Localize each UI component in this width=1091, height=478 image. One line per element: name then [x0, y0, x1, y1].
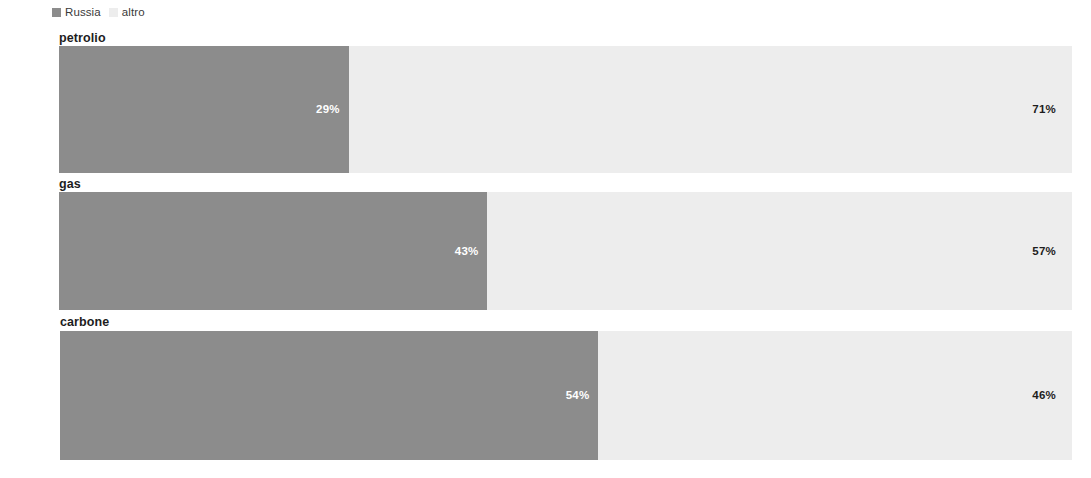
bar-value-gas-russia: 43%	[455, 245, 488, 258]
bar-segment-petrolio-russia[interactable]: 29%	[59, 46, 349, 173]
category-label-gas: gas	[59, 177, 81, 191]
bar-value-petrolio-russia: 29%	[316, 103, 349, 116]
stacked-bar-chart: petrolio 29% 71% gas 43% 57% carbone 54%	[0, 0, 1091, 478]
bar-track-carbone: 54% 46%	[60, 331, 1072, 460]
bar-segment-carbone-russia[interactable]: 54%	[60, 331, 598, 460]
bar-track-gas: 43% 57%	[59, 192, 1072, 310]
bar-segment-carbone-altro[interactable]: 46%	[598, 331, 1072, 460]
bar-segment-petrolio-altro[interactable]: 71%	[349, 46, 1072, 173]
bar-track-petrolio: 29% 71%	[59, 46, 1072, 173]
bar-value-petrolio-altro: 71%	[1032, 103, 1072, 116]
bar-value-carbone-russia: 54%	[566, 389, 599, 402]
bar-value-carbone-altro: 46%	[1032, 389, 1072, 402]
bar-value-gas-altro: 57%	[1032, 245, 1072, 258]
bar-segment-gas-altro[interactable]: 57%	[487, 192, 1072, 310]
category-label-petrolio: petrolio	[59, 31, 106, 45]
bar-segment-gas-russia[interactable]: 43%	[59, 192, 487, 310]
category-label-carbone: carbone	[60, 315, 109, 329]
